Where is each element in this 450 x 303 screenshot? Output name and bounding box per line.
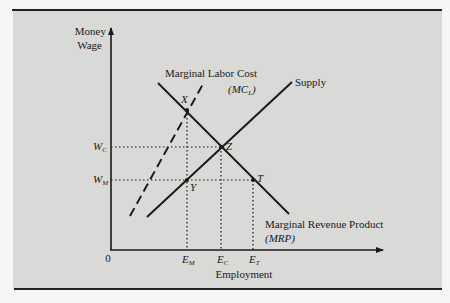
y-axis-label-line2: Wage	[77, 39, 102, 51]
origin-label: 0	[105, 252, 111, 264]
supply-curve-label: Supply	[295, 76, 327, 88]
point-t-label: T	[257, 172, 264, 184]
point-x-label: X	[180, 93, 189, 105]
mc-curve-abbr: (MCL)	[228, 83, 256, 97]
monopsony-labor-market-diagram: Money Wage Employment 0 Marginal Labor C…	[0, 0, 450, 303]
mc-curve-label: Marginal Labor Cost	[165, 67, 257, 79]
x-axis-label: Employment	[216, 268, 273, 280]
point-t-marker	[251, 178, 255, 182]
point-z-label: Z	[226, 140, 233, 152]
mrp-curve-abbr: (MRP)	[265, 232, 295, 245]
y-axis-label-line1: Money	[75, 25, 107, 37]
mrp-curve-label: Marginal Revenue Product	[265, 218, 383, 230]
point-x-marker	[185, 108, 189, 112]
point-y-marker	[185, 178, 189, 182]
point-z-marker	[219, 145, 223, 149]
